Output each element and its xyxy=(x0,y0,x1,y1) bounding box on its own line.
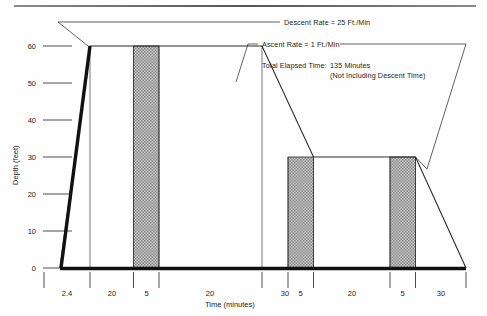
dive-profile-plot xyxy=(0,0,487,316)
y-axis-ticks xyxy=(43,46,72,268)
ascent-rate-leader-line xyxy=(236,44,258,82)
descent-rate-annotation: Descent Rate = 25 Ft./Min xyxy=(284,18,370,27)
shaded-band-stop1-5min xyxy=(288,157,314,268)
dive-profile-figure: 60 50 40 30 20 10 0 Depth (feet) 2.4 20 … xyxy=(0,0,487,316)
x-segment-label-6: 5 xyxy=(288,289,313,298)
ascent-rate-annotation: Ascent Rate = 1 Ft./Min xyxy=(262,40,340,49)
x-axis-title: Time (minutes) xyxy=(205,300,255,309)
y-tick-label-40: 40 xyxy=(14,116,36,125)
x-segment-label-8: 5 xyxy=(390,289,415,298)
x-segment-label-3: 5 xyxy=(134,289,159,298)
y-tick-label-0: 0 xyxy=(14,264,36,273)
y-tick-label-60: 60 xyxy=(14,42,36,51)
total-elapsed-time-note: (Not Including Descent Time) xyxy=(330,71,425,80)
shaded-band-stop2-5min xyxy=(390,157,416,268)
y-tick-label-20: 20 xyxy=(14,190,36,199)
x-segment-label-7: 20 xyxy=(336,289,368,298)
total-elapsed-time-value: 135 Minutes xyxy=(330,61,370,70)
y-tick-label-50: 50 xyxy=(14,79,36,88)
total-elapsed-time-label: Total Elapsed Time: xyxy=(262,61,327,70)
x-segment-label-9: 30 xyxy=(425,289,457,298)
x-segment-label-2: 20 xyxy=(96,289,128,298)
shaded-band-bottom-5min xyxy=(134,46,160,268)
descent-rate-leader-line xyxy=(58,22,280,46)
y-axis-title: Depth (feet) xyxy=(11,145,20,185)
x-segment-label-1: 2.4 xyxy=(52,289,82,298)
x-segment-label-4: 20 xyxy=(194,289,226,298)
x-axis-segment-ticks xyxy=(44,272,466,288)
y-tick-label-10: 10 xyxy=(14,227,36,236)
